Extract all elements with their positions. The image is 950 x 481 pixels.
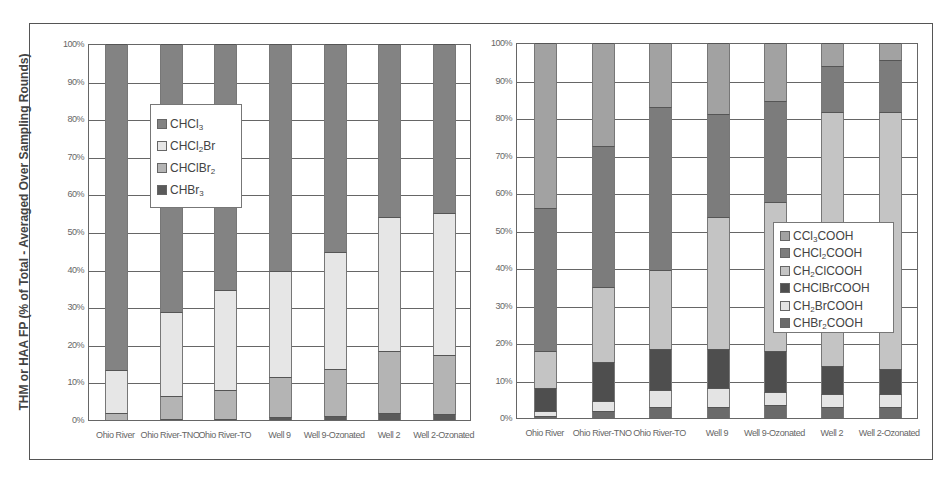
y-axis-label: THM or HAA FP (% of Total - Averaged Ove… xyxy=(17,54,31,411)
bar-segment-chbr2cooh xyxy=(592,411,615,419)
bar-segment-ch2clcooh xyxy=(649,270,672,349)
bar-segment-chcl3 xyxy=(378,44,401,217)
bar-segment-chcl2cooh xyxy=(821,66,844,113)
y-tick-label: 80% xyxy=(54,114,84,124)
x-tick-label: Well 2-Ozonated xyxy=(851,428,927,438)
legend-label: CHCl2COOH xyxy=(793,246,862,260)
legend-swatch xyxy=(780,248,790,258)
bar-segment-chcl2cooh xyxy=(879,60,902,113)
legend-swatch xyxy=(157,185,167,195)
bar-segment-chbr3 xyxy=(433,414,456,420)
bar-segment-chbr2cooh xyxy=(821,407,844,418)
bar-segment-chbr2cooh xyxy=(879,407,902,418)
bar-segment-chclbrcooh xyxy=(592,362,615,401)
stacked-bar-ohio-river-to xyxy=(214,44,237,420)
y-tick-label: 70% xyxy=(54,152,84,162)
legend-item-ch2brcooh: CH2BrCOOH xyxy=(780,297,887,315)
bar-segment-chbr3 xyxy=(160,419,183,420)
y-tick-label: 60% xyxy=(482,188,512,198)
legend-item-chcl2br: CHCl2Br xyxy=(157,135,235,157)
bar-segment-ccl3cooh xyxy=(879,43,902,60)
bar-segment-chcl2cooh xyxy=(707,114,730,217)
bar-segment-ccl3cooh xyxy=(764,43,787,101)
bar-segment-chcl2br xyxy=(378,217,401,351)
legend-item-chclbrcooh: CHClBrCOOH xyxy=(780,280,887,298)
bar-segment-ch2brcooh xyxy=(649,390,672,407)
bar-segment-chcl2br xyxy=(269,271,292,377)
bar-segment-chbr3 xyxy=(324,416,347,420)
legend-swatch xyxy=(157,119,167,129)
y-tick-label: 30% xyxy=(54,302,84,312)
legend-item-chclbr2: CHClBr2 xyxy=(157,157,235,179)
bar-segment-chclbrcooh xyxy=(649,349,672,390)
legend-label: CH2BrCOOH xyxy=(793,299,863,313)
y-tick-label: 50% xyxy=(482,226,512,236)
bar-segment-chcl3 xyxy=(105,44,128,370)
bar-segment-chbr2cooh xyxy=(649,407,672,418)
y-tick-label: 10% xyxy=(54,377,84,387)
bar-segment-ccl3cooh xyxy=(707,43,730,114)
y-tick-label: 40% xyxy=(482,263,512,273)
y-tick-label: 10% xyxy=(482,376,512,386)
legend-item-chcl2cooh: CHCl2COOH xyxy=(780,245,887,263)
legend-label: CHCl3 xyxy=(170,117,203,131)
y-tick-label: 100% xyxy=(54,39,84,49)
legend-swatch xyxy=(780,318,790,328)
bar-segment-ch2brcooh xyxy=(707,388,730,407)
stacked-bar-well-2 xyxy=(378,44,401,420)
legend-item-ccl3cooh: CCl3COOH xyxy=(780,227,887,245)
bar-segment-chbr2cooh xyxy=(764,405,787,418)
bar-segment-ch2brcooh xyxy=(534,411,557,417)
bar-segment-ccl3cooh xyxy=(534,43,557,208)
bar-segment-ch2clcooh xyxy=(534,351,557,389)
bar-segment-ccl3cooh xyxy=(649,43,672,107)
legend-label: CHClBr2 xyxy=(170,161,215,175)
stacked-bar-well-9 xyxy=(707,43,730,418)
legend-label: CH2ClCOOH xyxy=(793,264,862,278)
legend-item-chcl3: CHCl3 xyxy=(157,113,235,135)
bar-segment-ch2brcooh xyxy=(821,394,844,407)
y-tick-label: 90% xyxy=(54,77,84,87)
bar-segment-chcl2cooh xyxy=(649,107,672,270)
bar-segment-chcl2br xyxy=(324,252,347,369)
stacked-bar-ohio-river xyxy=(105,44,128,420)
bar-segment-chcl2cooh xyxy=(534,208,557,351)
stacked-bar-well-9 xyxy=(269,44,292,420)
y-tick-label: 90% xyxy=(482,76,512,86)
bar-segment-ccl3cooh xyxy=(821,43,844,66)
bar-segment-chcl2br xyxy=(160,312,183,397)
bar-segment-ch2brcooh xyxy=(592,401,615,410)
bar-segment-chclbrcooh xyxy=(879,369,902,393)
y-tick-label: 30% xyxy=(482,301,512,311)
bar-segment-ccl3cooh xyxy=(592,43,615,146)
stacked-bar-well-9-ozonated xyxy=(324,44,347,420)
legend-label: CHClBrCOOH xyxy=(793,281,870,295)
bar-segment-chclbr2 xyxy=(269,377,292,416)
legend-label: CHBr2COOH xyxy=(793,316,863,330)
legend-swatch xyxy=(157,141,167,151)
x-tick-label: Well 2-Ozonated xyxy=(406,430,482,440)
y-tick-label: 0% xyxy=(482,413,512,423)
y-tick-label: 80% xyxy=(482,113,512,123)
legend-swatch xyxy=(157,163,167,173)
bar-segment-chbr3 xyxy=(269,417,292,420)
bar-segment-chclbr2 xyxy=(324,369,347,416)
bar-segment-chclbr2 xyxy=(433,355,456,413)
bar-segment-ch2clcooh xyxy=(592,287,615,362)
y-tick-label: 40% xyxy=(54,265,84,275)
bar-segment-ch2clcooh xyxy=(707,217,730,348)
haa-legend: CCl3COOHCHCl2COOHCH2ClCOOHCHClBrCOOHCH2B… xyxy=(773,222,894,333)
legend-swatch xyxy=(780,266,790,276)
legend-item-ch2clcooh: CH2ClCOOH xyxy=(780,262,887,280)
bar-segment-chcl3 xyxy=(269,44,292,271)
y-tick-label: 70% xyxy=(482,151,512,161)
bar-segment-ch2brcooh xyxy=(879,394,902,407)
bar-segment-chcl2br xyxy=(433,213,456,355)
y-tick-label: 60% xyxy=(54,189,84,199)
bar-segment-chclbrcooh xyxy=(534,388,557,411)
thm-legend: CHCl3CHCl2BrCHClBr2CHBr3 xyxy=(150,104,242,208)
stacked-bar-ohio-river-tno xyxy=(592,43,615,418)
bar-segment-chcl3 xyxy=(324,44,347,252)
legend-label: CHCl2Br xyxy=(170,139,215,153)
y-tick-label: 50% xyxy=(54,227,84,237)
